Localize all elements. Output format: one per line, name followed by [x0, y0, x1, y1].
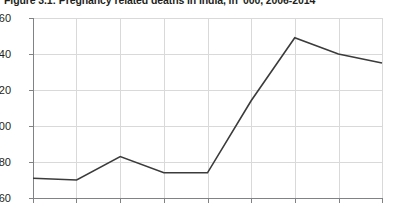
- x-tick-2008: [120, 199, 121, 203]
- plot-area: 160 140 120 100 80 60 2006 2007 2008 200…: [33, 18, 383, 199]
- y-axis-label-140: 140: [0, 49, 11, 60]
- x-tick-2011: [251, 199, 252, 203]
- x-tick-2006: [33, 199, 34, 203]
- y-axis-label-120: 120: [0, 85, 11, 96]
- y-axis-label-100: 100: [0, 121, 11, 132]
- x-tick-2009: [164, 199, 165, 203]
- series-line-pregnancy-related-deaths: [33, 38, 382, 180]
- x-tick-2010: [208, 199, 209, 203]
- y-axis-label-160: 160: [0, 13, 11, 24]
- y-axis-label-60: 60: [0, 193, 11, 204]
- x-tick-2014: [382, 199, 383, 203]
- x-tick-2013: [339, 199, 340, 203]
- y-axis-label-80: 80: [0, 157, 11, 168]
- x-tick-2012: [295, 199, 296, 203]
- series-line-chart: [33, 18, 383, 199]
- chart-title: Figure 3.1: Pregnancy related deaths in …: [4, 0, 401, 7]
- x-tick-2007: [76, 199, 77, 203]
